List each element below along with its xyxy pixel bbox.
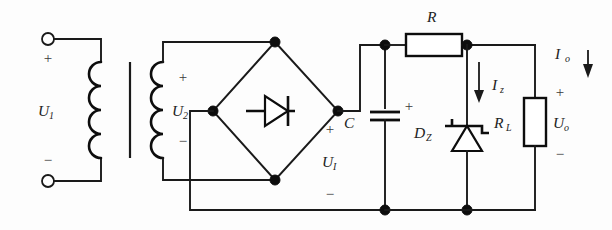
svg-text:L: L	[505, 122, 512, 133]
svg-text:D: D	[413, 124, 425, 141]
primary-voltage-label: U 1	[38, 102, 54, 121]
circuit-diagram: + − U 1 + − U 2	[0, 0, 612, 230]
primary-plus-sign: +	[44, 50, 52, 66]
rectified-plus-sign: +	[326, 121, 334, 137]
svg-text:o: o	[565, 53, 570, 64]
secondary-minus-sign: −	[179, 133, 187, 149]
output-voltage-label: U o	[553, 114, 569, 133]
schematic-canvas: + − U 1 + − U 2	[0, 0, 612, 230]
load-resistor-body	[524, 98, 546, 146]
series-resistor-label: R	[426, 8, 437, 25]
zener-diode	[445, 45, 489, 210]
svg-text:1: 1	[49, 110, 54, 121]
svg-text:z: z	[499, 84, 504, 95]
transformer-secondary-coil	[151, 62, 163, 158]
series-resistor-body	[406, 34, 462, 56]
output-minus-sign: −	[556, 146, 564, 162]
filter-capacitor	[370, 45, 400, 210]
primary-minus-sign: −	[44, 152, 52, 168]
bridge-node-bottom	[270, 175, 280, 185]
output-current-arrow	[583, 50, 593, 78]
load-resistor-label: R L	[493, 114, 512, 133]
capacitor-label: C	[344, 114, 355, 131]
rectified-voltage-label: U I	[322, 153, 337, 172]
zener-current-label: I z	[491, 76, 504, 95]
bridge-node-top	[270, 37, 280, 47]
svg-text:I: I	[332, 161, 337, 172]
load-resistor	[524, 45, 546, 210]
output-current-label: I o	[554, 45, 570, 64]
zener-triangle	[452, 126, 482, 151]
bridge-rectifier	[213, 42, 338, 180]
svg-text:I: I	[554, 45, 561, 62]
output-plus-sign: +	[556, 84, 564, 100]
secondary-plus-sign: +	[179, 69, 187, 85]
bridge-diode-triangle	[265, 96, 288, 126]
zener-label: D Z	[413, 124, 432, 143]
svg-text:Z: Z	[426, 132, 432, 143]
rectified-minus-sign: −	[326, 186, 334, 202]
svg-text:I: I	[491, 76, 498, 93]
zener-current-arrow	[474, 62, 484, 103]
transformer-primary-coil	[89, 62, 101, 158]
secondary-voltage-label: U 2	[172, 102, 188, 121]
series-resistor	[385, 34, 467, 56]
svg-text:o: o	[564, 122, 569, 133]
svg-text:2: 2	[183, 110, 188, 121]
capacitor-plus-sign: +	[405, 98, 413, 114]
svg-text:R: R	[493, 114, 504, 131]
bridge-right-to-positive-rail	[338, 45, 385, 111]
